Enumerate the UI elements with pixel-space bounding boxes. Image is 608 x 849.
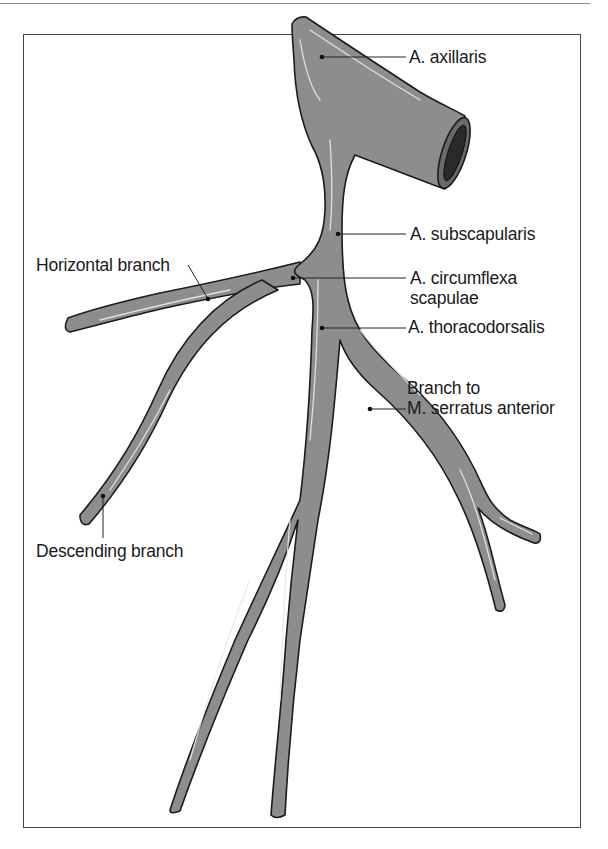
label-a-subscapularis: A. subscapularis xyxy=(410,224,535,245)
label-a-circumflexa-line1: A. circumflexa xyxy=(410,268,517,289)
label-horizontal-branch: Horizontal branch xyxy=(36,255,170,276)
label-a-thoracodorsalis: A. thoracodorsalis xyxy=(408,317,544,338)
label-a-axillaris: A. axillaris xyxy=(409,47,486,68)
label-serratus-anterior-line2: M. serratus anterior xyxy=(407,398,555,419)
label-descending-branch: Descending branch xyxy=(36,541,183,562)
label-a-circumflexa-line2: scapulae xyxy=(410,288,478,309)
label-branch-to-line1: Branch to xyxy=(407,378,480,399)
artery-illustration xyxy=(0,0,608,849)
